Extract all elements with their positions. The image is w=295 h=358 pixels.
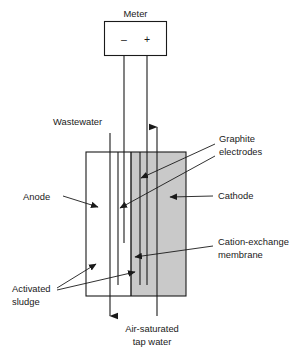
- meter-label: Meter: [124, 8, 148, 19]
- cation-exchange-membrane-label-line2: membrane: [218, 249, 263, 260]
- activated-sludge-label-line1: Activated: [12, 283, 51, 294]
- activated-sludge-leader-left: [57, 264, 96, 288]
- anode-leader: [63, 196, 98, 207]
- wastewater-label: Wastewater: [53, 116, 102, 127]
- graphite-electrodes-label-line1: Graphite: [219, 133, 255, 144]
- meter-negative-terminal-label: –: [121, 33, 127, 45]
- diagram-canvas: Meter – + Wastewater Graphite electrodes…: [0, 0, 295, 358]
- microbial-fuel-cell-diagram: Meter – + Wastewater Graphite electrodes…: [0, 0, 295, 358]
- activated-sludge-label-line2: sludge: [12, 296, 40, 307]
- meter-positive-terminal-label: +: [144, 33, 150, 45]
- air-saturated-water-label-line1: Air-saturated: [125, 323, 179, 334]
- air-saturated-water-label-line2: tap water: [133, 336, 172, 347]
- anode-label: Anode: [23, 191, 50, 202]
- cation-exchange-membrane-label-line1: Cation-exchange: [218, 236, 289, 247]
- meter-box: [105, 22, 167, 56]
- graphite-electrodes-label-line2: electrodes: [219, 146, 263, 157]
- cathode-chamber-shading: [131, 152, 186, 296]
- cathode-label: Cathode: [218, 190, 253, 201]
